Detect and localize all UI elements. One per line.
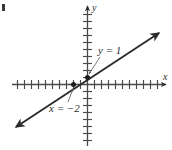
leader-line-y-equals-1 [89, 57, 100, 74]
point-y-intercept [85, 75, 90, 80]
annotation-y-intercept-label: y = 1 [98, 45, 121, 56]
coordinate-graph-figure: y x y = 1 x = −2 [0, 0, 172, 150]
y-axis-label: y [92, 3, 96, 13]
x-axis-label: x [163, 72, 167, 82]
annotation-x-intercept-label: x = −2 [49, 103, 80, 114]
point-x-intercept [71, 82, 76, 87]
graph-canvas [0, 0, 172, 150]
